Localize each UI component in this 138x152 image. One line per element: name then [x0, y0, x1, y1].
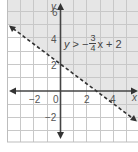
x-tick-neg2: −2 [29, 95, 40, 105]
y-tick-4: 4 [51, 35, 57, 45]
x-tick-2: 2 [84, 95, 90, 105]
inequality-sign: − [82, 38, 88, 50]
coordinate-graph [0, 0, 138, 152]
y-tick-2: 2 [51, 61, 57, 71]
slope-denominator: 4 [90, 44, 95, 53]
inequality-label: y > − 3 4 x + 2 [64, 34, 122, 53]
shaded-solution-region [7, 0, 138, 122]
y-tick-6: 6 [52, 8, 58, 18]
x-axis-label: x [132, 93, 137, 103]
inequality-rest: x + 2 [97, 38, 121, 50]
x-tick-0: 0 [53, 95, 59, 105]
inequality-lhs: y [64, 38, 70, 50]
x-tick-4: 4 [110, 95, 116, 105]
inequality-operator: > [73, 38, 79, 50]
x-axis-left-arrow-icon [9, 88, 16, 95]
y-tick-neg2: −2 [45, 113, 56, 123]
slope-fraction: 3 4 [89, 34, 96, 53]
y-axis-down-arrow-icon [57, 132, 64, 139]
